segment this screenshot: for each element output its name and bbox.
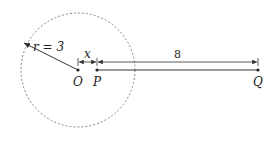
point-p-label: P bbox=[92, 75, 102, 89]
point-q-label: Q bbox=[253, 75, 263, 89]
diagram-canvas: r = 3 x 8 O P Q bbox=[0, 0, 276, 143]
pq-dimension-label: 8 bbox=[174, 48, 181, 61]
point-p bbox=[95, 68, 98, 71]
point-q bbox=[256, 68, 259, 71]
point-o-label: O bbox=[73, 75, 83, 89]
x-dimension-label: x bbox=[84, 47, 91, 61]
point-o bbox=[76, 68, 79, 71]
radius-label: r = 3 bbox=[33, 40, 64, 54]
